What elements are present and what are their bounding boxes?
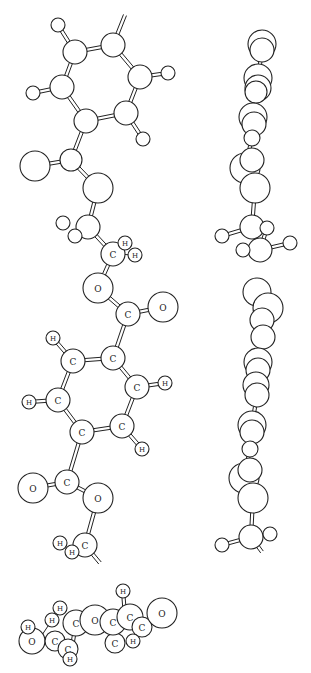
atom-label: H <box>130 638 136 646</box>
atom-label: O <box>159 303 166 313</box>
atom <box>20 151 50 181</box>
atom <box>248 238 272 262</box>
atom-label: O <box>94 284 101 294</box>
atom-label: O <box>28 637 35 647</box>
atom-label: C <box>73 619 80 629</box>
side-view <box>215 30 297 553</box>
atom <box>136 132 150 146</box>
atom-label: C <box>110 250 117 260</box>
end-view: OHHHCCCHOCCHCCHO <box>19 584 177 666</box>
atom-label: H <box>26 399 32 407</box>
atom-label: C <box>127 613 134 623</box>
atom-label: C <box>52 637 59 647</box>
atom-label: C <box>70 357 77 367</box>
atom-label: C <box>134 383 141 393</box>
atom <box>238 458 262 482</box>
atom <box>114 101 138 125</box>
molecule-diagram: CHHOCOCCHCHCCCHHCOOCHH OHHHCCCHOCCHCCHO <box>0 0 311 673</box>
atom-label: O <box>158 609 165 619</box>
atom-label: C <box>125 310 132 320</box>
atom <box>101 33 125 57</box>
atom-label: H <box>49 617 55 625</box>
atom <box>128 65 152 89</box>
atom-label: C <box>55 396 62 406</box>
atom-label: H <box>120 588 126 596</box>
atom-label: H <box>122 240 128 248</box>
atom <box>63 40 87 64</box>
atom <box>161 66 175 80</box>
atom <box>283 236 297 250</box>
atom <box>236 243 250 257</box>
atom-label: O <box>91 616 98 626</box>
atom <box>74 109 98 133</box>
atom <box>244 130 260 146</box>
atom <box>50 75 74 99</box>
atom <box>51 18 65 32</box>
front-view: CHHOCOCCHCHCCCHHCOOCHH <box>18 14 178 564</box>
atom <box>83 173 113 203</box>
atom <box>242 441 258 457</box>
atom <box>215 538 229 552</box>
atom-label: C <box>119 422 126 432</box>
atom-label: C <box>82 541 89 551</box>
atom-label: C <box>64 478 71 488</box>
atom-label: O <box>94 494 101 504</box>
atom <box>239 525 263 549</box>
atom-label: C <box>110 618 117 628</box>
atom <box>60 149 82 171</box>
atom <box>260 221 274 235</box>
atom <box>240 420 264 444</box>
atom <box>56 216 70 230</box>
atom-label: H <box>69 549 75 557</box>
atom-label: O <box>29 484 36 494</box>
atom <box>245 383 269 407</box>
atom-label: H <box>162 380 168 388</box>
atom-label: C <box>139 623 146 633</box>
atom <box>263 527 277 541</box>
atom-label: C <box>79 428 86 438</box>
atom-label: H <box>57 605 63 613</box>
atom <box>26 86 40 100</box>
atom <box>245 81 267 103</box>
atom <box>250 38 274 62</box>
atom <box>68 229 82 243</box>
atom-label: C <box>112 639 119 649</box>
atom-label: H <box>57 540 63 548</box>
atom <box>238 483 268 513</box>
atom-label: H <box>132 252 138 260</box>
atom <box>215 229 229 243</box>
atom <box>240 148 264 172</box>
atom <box>240 173 270 203</box>
atom-label: H <box>50 335 56 343</box>
atom <box>251 325 275 349</box>
atom-label: H <box>67 656 73 664</box>
atom-label: C <box>110 354 117 364</box>
atom-label: H <box>25 624 31 632</box>
atom-label: H <box>139 446 145 454</box>
